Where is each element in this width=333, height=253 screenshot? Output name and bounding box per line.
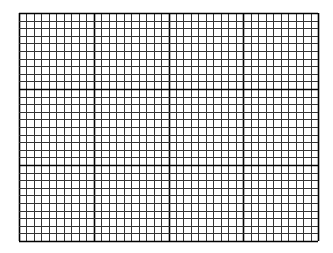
graph-paper-grid: [0, 0, 333, 253]
